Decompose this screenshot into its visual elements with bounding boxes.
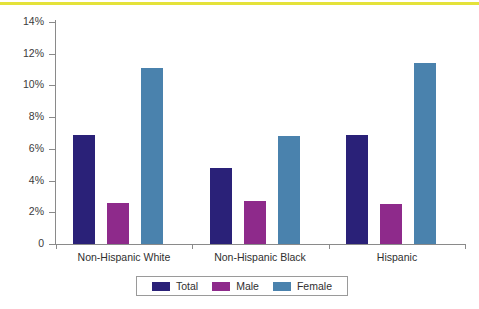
category-label-2: Hispanic [329, 252, 465, 264]
x-tick-mark [465, 244, 466, 249]
bar-total-1 [210, 168, 232, 244]
bars-layer [0, 0, 479, 244]
bar-female-2 [414, 63, 436, 244]
bar-male-0 [107, 203, 129, 244]
legend-swatch-total [152, 282, 170, 291]
x-tick-mark [329, 244, 330, 249]
bar-female-0 [141, 68, 163, 244]
bar-male-2 [380, 204, 402, 244]
bar-female-1 [278, 136, 300, 244]
legend-swatch-male [212, 282, 230, 291]
x-tick-mark [192, 244, 193, 249]
legend-item-female[interactable]: Female [273, 281, 332, 292]
y-tick-mark [49, 244, 55, 245]
legend-item-total[interactable]: Total [152, 281, 198, 292]
legend-label-female: Female [297, 281, 332, 292]
category-label-1: Non-Hispanic Black [192, 252, 328, 264]
chart-figure: 02%4%6%8%10%12%14% Non-Hispanic WhiteNon… [0, 0, 479, 309]
x-tick-mark [56, 244, 57, 249]
bar-total-0 [73, 135, 95, 244]
legend-item-male[interactable]: Male [212, 281, 259, 292]
legend-swatch-female [273, 282, 291, 291]
legend-label-total: Total [176, 281, 198, 292]
bar-male-1 [244, 201, 266, 244]
plot-area: 02%4%6%8%10%12%14% Non-Hispanic WhiteNon… [0, 0, 479, 309]
category-label-0: Non-Hispanic White [56, 252, 192, 264]
chart-legend: TotalMaleFemale [136, 276, 348, 296]
x-axis-line [55, 244, 466, 245]
bar-total-2 [346, 135, 368, 244]
legend-label-male: Male [236, 281, 259, 292]
